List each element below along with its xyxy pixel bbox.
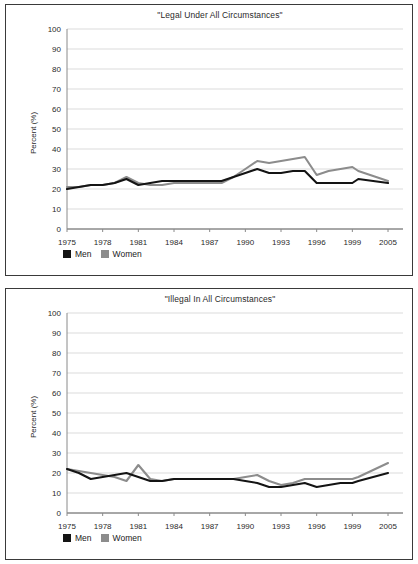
- chart-title-legal: "Legal Under All Circumstances": [11, 9, 407, 21]
- y-tick-label: 90: [52, 45, 61, 54]
- y-tick-label: 70: [52, 369, 61, 378]
- legend-swatch-women-icon: [101, 250, 109, 258]
- x-tick-label: 2005: [379, 522, 397, 529]
- legend-item-men: Men: [63, 249, 92, 259]
- legend-legal: Men Women: [11, 246, 407, 262]
- y-tick-label: 40: [52, 145, 61, 154]
- x-tick-label: 1978: [94, 238, 112, 245]
- legend-illegal: Men Women: [11, 530, 407, 546]
- line-chart-legal: 0102030405060708090100197519781981198419…: [11, 21, 409, 245]
- y-tick-label: 60: [52, 105, 61, 114]
- y-tick-label: 80: [52, 65, 61, 74]
- x-tick-label: 1993: [272, 522, 290, 529]
- y-tick-label: 0: [57, 509, 62, 518]
- legend-swatch-men-icon: [63, 534, 71, 542]
- x-tick-label: 1996: [308, 522, 326, 529]
- legend-label-men: Men: [75, 533, 92, 543]
- y-tick-label: 10: [52, 489, 61, 498]
- line-chart-illegal: 0102030405060708090100197519781981198419…: [11, 305, 409, 529]
- y-tick-label: 80: [52, 349, 61, 358]
- legend-label-women: Women: [113, 533, 142, 543]
- x-tick-label: 1990: [236, 238, 254, 245]
- x-tick-label: 1984: [165, 522, 183, 529]
- chart-panel-legal: "Legal Under All Circumstances" Percent …: [5, 4, 413, 276]
- x-tick-label: 1978: [94, 522, 112, 529]
- y-tick-label: 70: [52, 85, 61, 94]
- y-tick-label: 100: [48, 309, 62, 318]
- legend-label-men: Men: [75, 249, 92, 259]
- series-line-men: [67, 169, 388, 189]
- legend-item-men: Men: [63, 533, 92, 543]
- legend-item-women: Women: [101, 249, 142, 259]
- x-tick-label: 1999: [343, 522, 361, 529]
- y-tick-label: 10: [52, 205, 61, 214]
- x-tick-label: 1981: [129, 238, 147, 245]
- x-tick-label: 2005: [379, 238, 397, 245]
- x-tick-label: 1987: [201, 238, 219, 245]
- x-tick-label: 1975: [58, 238, 76, 245]
- figure-root: "Legal Under All Circumstances" Percent …: [0, 0, 418, 564]
- plot-area-legal: Percent (%) 0102030405060708090100197519…: [11, 21, 409, 245]
- y-tick-label: 0: [57, 225, 62, 234]
- x-tick-label: 1996: [308, 238, 326, 245]
- y-tick-label: 30: [52, 449, 61, 458]
- x-tick-label: 1975: [58, 522, 76, 529]
- y-tick-label: 20: [52, 469, 61, 478]
- y-tick-label: 30: [52, 165, 61, 174]
- y-tick-label: 60: [52, 389, 61, 398]
- x-tick-label: 1984: [165, 238, 183, 245]
- y-tick-label: 100: [48, 25, 62, 34]
- chart-title-illegal: "Illegal In All Circumstances": [11, 293, 407, 305]
- plot-area-illegal: Percent (%) 0102030405060708090100197519…: [11, 305, 409, 529]
- legend-swatch-women-icon: [101, 534, 109, 542]
- x-tick-label: 1981: [129, 522, 147, 529]
- y-tick-label: 50: [52, 125, 61, 134]
- y-tick-label: 20: [52, 185, 61, 194]
- legend-item-women: Women: [101, 533, 142, 543]
- y-tick-label: 40: [52, 429, 61, 438]
- x-tick-label: 1987: [201, 522, 219, 529]
- x-tick-label: 1990: [236, 522, 254, 529]
- x-tick-label: 1999: [343, 238, 361, 245]
- legend-swatch-men-icon: [63, 250, 71, 258]
- chart-panel-illegal: "Illegal In All Circumstances" Percent (…: [5, 288, 413, 560]
- legend-label-women: Women: [113, 249, 142, 259]
- x-tick-label: 1993: [272, 238, 290, 245]
- y-tick-label: 50: [52, 409, 61, 418]
- y-tick-label: 90: [52, 329, 61, 338]
